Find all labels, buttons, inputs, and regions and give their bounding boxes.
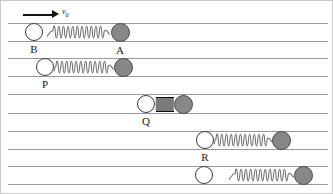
diagram-stage: v0 BAPQR xyxy=(1,1,333,194)
ball-dark-2 xyxy=(114,58,133,77)
velocity-arrow-head xyxy=(52,10,59,18)
ball-light-5 xyxy=(195,166,213,184)
spring-relaxed xyxy=(47,23,110,41)
rail-3-top xyxy=(8,94,328,95)
ball-dark-a xyxy=(111,23,130,42)
ball-light-q xyxy=(137,95,155,113)
velocity-subscript: 0 xyxy=(66,12,69,18)
velocity-arrow-shaft xyxy=(23,14,53,16)
rail-5-bottom xyxy=(8,184,328,185)
label-p: P xyxy=(33,79,57,90)
rail-3-bottom xyxy=(8,113,328,114)
spring-fully-compressed xyxy=(156,97,174,112)
label-q: Q xyxy=(134,116,158,127)
rail-2-bottom xyxy=(8,76,328,77)
spring-relaxed xyxy=(229,166,294,184)
velocity-arrow-label: v0 xyxy=(62,8,69,19)
ball-dark-4 xyxy=(272,131,291,150)
ball-light-p xyxy=(36,58,54,76)
ball-light-b xyxy=(25,23,43,41)
ball-dark-5 xyxy=(294,166,313,185)
label-a: A xyxy=(108,45,132,56)
rail-1-bottom xyxy=(8,41,328,42)
spring-partly-compressed xyxy=(54,58,114,76)
label-r: R xyxy=(193,152,217,163)
label-b: B xyxy=(22,44,46,55)
spring-partly-compressed xyxy=(214,131,273,149)
ball-light-r xyxy=(196,131,214,149)
physics-diagram-figure: v0 BAPQR xyxy=(0,0,333,194)
ball-dark-3 xyxy=(174,95,193,114)
